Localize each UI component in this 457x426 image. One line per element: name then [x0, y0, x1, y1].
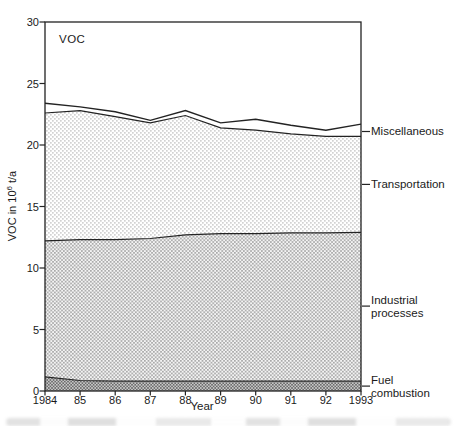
y-tick-label: 5: [13, 324, 39, 335]
x-tick-label: 1993: [349, 394, 373, 407]
series-label-industrial-processes: Industrial processes: [371, 294, 455, 319]
y-tick-label: 20: [13, 140, 39, 151]
x-tick-label: 85: [74, 394, 86, 407]
x-tick-label: 91: [285, 394, 297, 407]
area-industrial-processes: [45, 232, 361, 381]
y-tick-label: 30: [13, 17, 39, 28]
x-tick-label: 86: [109, 394, 121, 407]
figure: 051015202530198485868788899091921993Misc…: [0, 0, 457, 426]
series-label-fuel-combustion: Fuel combustion: [371, 374, 455, 399]
x-tick-label: 92: [320, 394, 332, 407]
y-tick-label: 25: [13, 78, 39, 89]
y-axis-title-suffix: t/a: [6, 171, 18, 186]
series-label-transportation: Transportation: [371, 178, 455, 191]
x-tick-label: 1984: [33, 394, 57, 407]
series-label-miscellaneous: Miscellaneous: [371, 125, 455, 138]
chart-canvas: [0, 0, 457, 426]
x-axis-title: Year: [190, 400, 213, 412]
x-tick-label: 87: [144, 394, 156, 407]
plot-inner-title: VOC: [59, 33, 85, 45]
y-tick-label: 10: [13, 263, 39, 274]
y-axis-title-prefix: VOC in 10: [6, 191, 18, 242]
y-axis-title: VOC in 106 t/a: [5, 171, 18, 242]
y-axis-title-exponent: 6: [5, 186, 14, 190]
x-tick-label: 90: [250, 394, 262, 407]
x-tick-label: 89: [214, 394, 226, 407]
scan-artifact: [6, 418, 451, 426]
